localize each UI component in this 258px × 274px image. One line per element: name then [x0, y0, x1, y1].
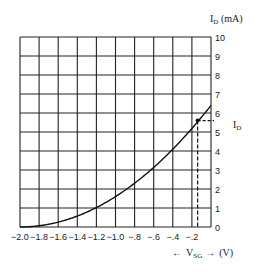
- x-tick-label: −.2: [186, 232, 199, 242]
- x-tick-label: −.8: [128, 232, 141, 242]
- id-vs-vsg-chart: 012345678910 −2.0−1.8−1.6−1.4−1.2−1.0−.8…: [0, 0, 258, 274]
- y-tick-label: 8: [215, 71, 220, 81]
- chart-grid: [20, 37, 211, 227]
- y-tick-label: 7: [215, 90, 220, 100]
- y-tick-label: 3: [215, 166, 220, 176]
- x-tick-label: −1.6: [49, 232, 67, 242]
- y-tick-label: 0: [215, 223, 220, 233]
- y-axis-ticks: 012345678910: [215, 33, 225, 233]
- y-axis-title: ID (mA): [210, 13, 243, 26]
- x-axis-ticks: −2.0−1.8−1.6−1.4−1.2−1.0−.8−.6−.4−.2: [11, 232, 198, 242]
- y-tick-label: 2: [215, 185, 220, 195]
- y-tick-label: 1: [215, 204, 220, 214]
- y-tick-label: 9: [215, 52, 220, 62]
- x-tick-label: −1.0: [107, 232, 125, 242]
- x-tick-label: −1.8: [30, 232, 48, 242]
- x-tick-label: −2.0: [11, 232, 29, 242]
- curve-label: ID: [233, 119, 241, 132]
- x-tick-label: −.6: [147, 232, 160, 242]
- x-tick-label: −1.4: [68, 232, 86, 242]
- x-tick-label: −.4: [166, 232, 179, 242]
- x-tick-label: −1.2: [88, 232, 106, 242]
- y-tick-label: 6: [215, 109, 220, 119]
- y-tick-label: 10: [215, 33, 225, 43]
- y-tick-label: 5: [215, 128, 220, 138]
- x-axis-title: ←VSG→(V): [172, 247, 233, 260]
- y-tick-label: 4: [215, 147, 220, 157]
